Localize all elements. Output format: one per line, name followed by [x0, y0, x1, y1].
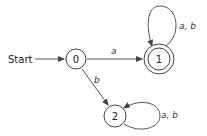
- transition-2-self-loop: a, b: [124, 102, 178, 129]
- transition-0-to-1: a: [87, 46, 142, 59]
- transition-label: a: [111, 46, 117, 56]
- transition-0-to-2: b: [82, 69, 108, 105]
- start-indicator: Start: [8, 54, 64, 65]
- state-label: 2: [112, 111, 118, 122]
- transition-label: b: [94, 75, 100, 85]
- transition-label: a, b: [179, 21, 196, 31]
- dfa-diagram: Start a b a, b a, b 0 1 2: [0, 0, 207, 136]
- state-0: 0: [66, 49, 86, 69]
- start-label: Start: [8, 54, 33, 65]
- state-label: 1: [156, 54, 162, 65]
- transition-1-self-loop: a, b: [148, 6, 196, 46]
- state-2: 2: [104, 105, 126, 127]
- state-1-accepting: 1: [144, 44, 174, 74]
- self-loop-arrow: [148, 6, 176, 46]
- state-label: 0: [73, 54, 79, 65]
- self-loop-arrow: [124, 102, 160, 129]
- transition-label: a, b: [161, 110, 178, 120]
